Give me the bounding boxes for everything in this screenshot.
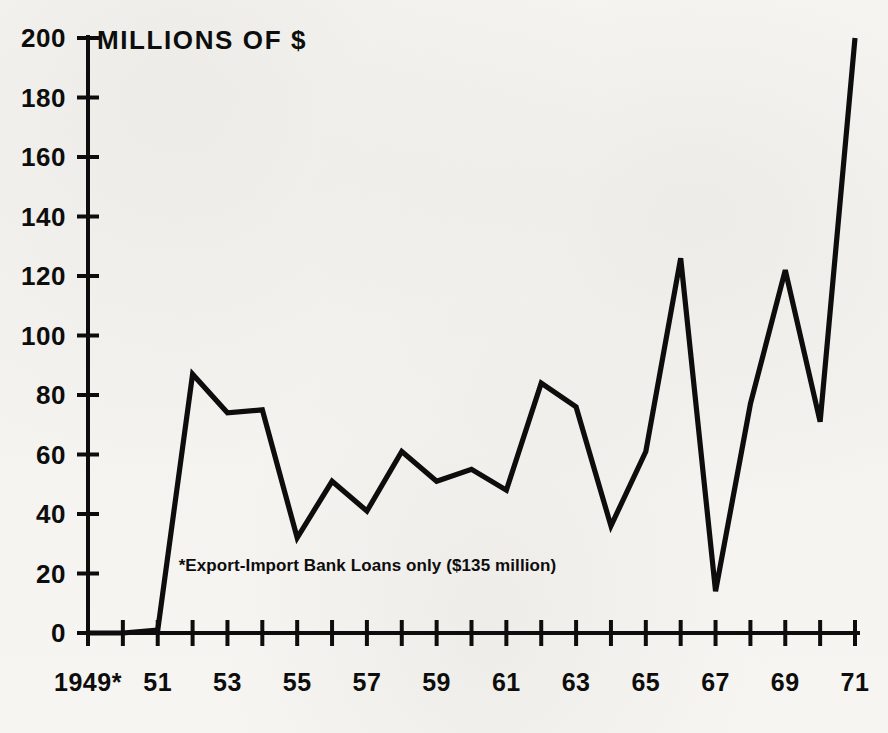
y-axis-tick-label: 120 <box>21 261 66 291</box>
x-axis-tick-label: 51 <box>143 668 172 696</box>
x-axis-tick-label: 61 <box>492 668 521 696</box>
chart-figure: 020406080100120140160180200 1949*5153555… <box>0 0 888 733</box>
x-axis-tick-label: 69 <box>771 668 800 696</box>
x-axis-tick-label: 59 <box>422 668 451 696</box>
x-axis-tick-labels: 1949*5153555759616365676971 <box>54 668 869 696</box>
x-axis-tick-label: 57 <box>353 668 382 696</box>
x-axis-tick-label: 63 <box>562 668 591 696</box>
y-axis-tick-label: 100 <box>21 321 66 351</box>
x-axis-tick-label: 67 <box>701 668 730 696</box>
x-axis-tick-label: 55 <box>283 668 312 696</box>
y-axis-tick-labels: 020406080100120140160180200 <box>21 23 66 648</box>
y-axis-tick-label: 0 <box>51 618 66 648</box>
y-axis-tick-label: 60 <box>36 440 66 470</box>
data-series-line <box>88 38 855 633</box>
y-axis-tick-label: 40 <box>36 499 66 529</box>
chart-annotations: *Export-Import Bank Loans only ($135 mil… <box>179 556 557 575</box>
line-chart-svg: 020406080100120140160180200 1949*5153555… <box>0 0 888 733</box>
chart-annotation-label: *Export-Import Bank Loans only ($135 mil… <box>179 556 557 575</box>
y-axis-tick-label: 180 <box>21 83 66 113</box>
x-axis-tick-label: 71 <box>841 668 870 696</box>
x-axis-tick-label: 1949* <box>54 668 122 696</box>
y-axis-tick-label: 20 <box>36 559 66 589</box>
y-axis-tick-label: 80 <box>36 380 66 410</box>
x-axis-tick-label: 53 <box>213 668 242 696</box>
y-axis-tick-label: 160 <box>21 142 66 172</box>
x-axis-tick-label: 65 <box>631 668 660 696</box>
chart-axis-title: MILLIONS OF $ <box>97 25 307 55</box>
y-axis-tick-label: 140 <box>21 202 66 232</box>
y-axis-tick-label: 200 <box>21 23 66 53</box>
